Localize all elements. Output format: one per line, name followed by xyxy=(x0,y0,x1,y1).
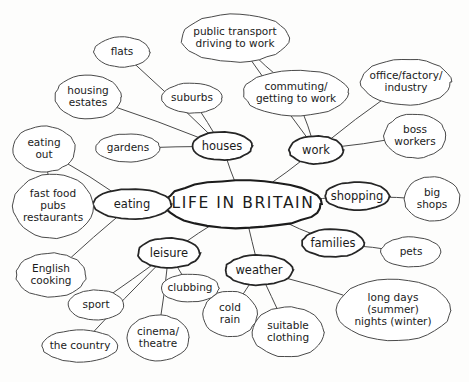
node-shape-english_cooking[interactable] xyxy=(16,253,86,297)
node-shape-families[interactable] xyxy=(302,229,364,257)
node-shape-housing_estates[interactable] xyxy=(55,75,121,119)
edge-leisure-to-clubbing xyxy=(178,267,182,274)
node-shape-shopping[interactable] xyxy=(325,182,389,210)
node-shape-commuting[interactable] xyxy=(244,70,349,116)
edge-work-to-boss_workers xyxy=(342,140,385,146)
node-shape-suburbs[interactable] xyxy=(162,83,222,113)
edge-weather-to-long_days xyxy=(287,278,343,295)
mindmap-canvas: LIFE IN BRITAINhousesworkeatingleisurewe… xyxy=(0,0,469,382)
edge-center-to-families xyxy=(288,224,310,234)
node-layer xyxy=(12,14,460,362)
mindmap-graphics xyxy=(0,0,469,382)
node-shape-work[interactable] xyxy=(289,136,344,164)
node-shape-flats[interactable] xyxy=(93,37,150,67)
node-shape-office_factory[interactable] xyxy=(360,59,452,105)
node-shape-center[interactable] xyxy=(165,180,322,228)
edge-center-to-houses xyxy=(227,160,234,180)
edge-houses-to-suburbs xyxy=(201,112,214,132)
edge-commuting-to-public_transport xyxy=(259,60,273,73)
node-shape-boss_workers[interactable] xyxy=(384,114,446,158)
edge-work-to-commuting xyxy=(304,116,311,136)
edge-center-to-leisure xyxy=(187,226,210,241)
node-shape-fast_food[interactable] xyxy=(12,174,93,238)
node-shape-eating[interactable] xyxy=(93,189,172,219)
node-shape-pets[interactable] xyxy=(381,237,441,267)
node-shape-gardens[interactable] xyxy=(96,134,160,162)
node-shape-eating_out[interactable] xyxy=(13,126,75,172)
node-shape-long_days[interactable] xyxy=(336,279,451,340)
edge-center-to-weather xyxy=(249,228,256,255)
edge-work-to-office_factory xyxy=(331,101,381,138)
node-shape-suitable_clothing[interactable] xyxy=(252,307,324,357)
node-shape-houses[interactable] xyxy=(193,132,253,160)
node-shape-public_transport[interactable] xyxy=(181,14,289,62)
node-shape-big_shops[interactable] xyxy=(404,177,460,221)
node-shape-leisure[interactable] xyxy=(138,238,200,268)
edge-leisure-to-sport xyxy=(113,265,152,293)
edge-center-to-work xyxy=(273,161,300,181)
edge-weather-to-suitable_clothing xyxy=(266,285,277,309)
edge-weather-to-cold_rain xyxy=(243,284,249,294)
edge-shopping-to-big_shops xyxy=(389,197,404,198)
edge-families-to-pets xyxy=(363,246,382,248)
node-shape-weather[interactable] xyxy=(226,255,294,285)
edge-houses-to-gardens xyxy=(160,147,192,148)
node-shape-cold_rain[interactable] xyxy=(203,291,258,336)
node-shape-sport[interactable] xyxy=(68,290,124,320)
node-shape-the_country[interactable] xyxy=(42,330,118,362)
node-shape-cinema_theatre[interactable] xyxy=(127,315,189,361)
